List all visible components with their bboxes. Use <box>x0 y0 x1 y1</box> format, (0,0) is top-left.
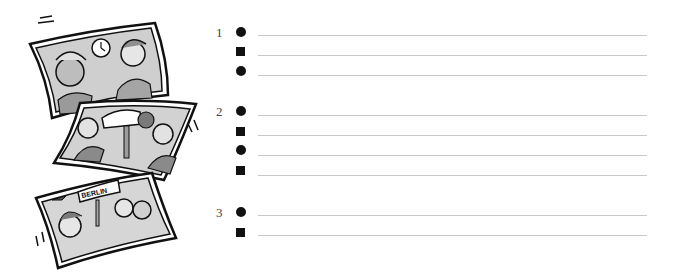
answer-line[interactable] <box>258 55 647 56</box>
panel-berlin-travel: BERLIN <box>36 173 176 268</box>
circle-marker <box>236 207 246 217</box>
answer-line[interactable] <box>258 235 647 236</box>
circle-marker <box>236 27 246 37</box>
answer-line[interactable] <box>258 115 647 116</box>
circle-marker <box>236 66 246 76</box>
answer-line[interactable] <box>258 215 647 216</box>
square-marker <box>236 127 245 136</box>
group-number-3: 3 <box>216 206 223 219</box>
group-number-1: 1 <box>216 26 223 39</box>
answer-line[interactable] <box>258 135 647 136</box>
circle-marker <box>236 145 246 155</box>
answer-line[interactable] <box>258 155 647 156</box>
square-marker <box>236 166 245 175</box>
answer-line[interactable] <box>258 175 647 176</box>
group-number-2: 2 <box>216 105 223 118</box>
answer-line[interactable] <box>258 35 647 36</box>
answer-line[interactable] <box>258 75 647 76</box>
square-marker <box>236 228 245 237</box>
circle-marker <box>236 106 246 116</box>
cartoon-illustration: BERLIN <box>0 0 210 279</box>
square-marker <box>236 47 245 56</box>
